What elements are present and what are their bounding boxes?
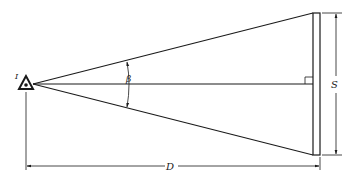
distance-label: D bbox=[165, 161, 174, 172]
upper-sight-line bbox=[33, 13, 313, 84]
right-angle-marker bbox=[305, 77, 313, 84]
viewing-angle-diagram: I β S D bbox=[0, 0, 356, 179]
screen bbox=[313, 13, 320, 155]
observer-label: I bbox=[14, 72, 19, 81]
observer-eye-icon bbox=[19, 76, 33, 89]
angle-beta-label: β bbox=[125, 74, 131, 84]
lower-sight-line bbox=[33, 84, 313, 155]
screen-height-label: S bbox=[331, 79, 338, 90]
